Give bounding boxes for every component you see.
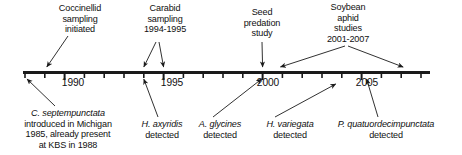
leader-carabid-sampling (159, 42, 164, 67)
annotation-p-quatuordecimpunctata: P. quatuordecimpunctata detected (318, 119, 454, 140)
annotation-h-variegata: H. variegata detected (252, 119, 328, 140)
annotation-line: introduced in Michigan (8, 119, 128, 130)
leader-carabid-sampling (144, 42, 156, 67)
annotation-line: Carabid (120, 3, 210, 14)
species-name: P. quatuordecimpunctata (318, 119, 454, 130)
annotation-line: sampling (35, 14, 125, 25)
annotation-line: aphid (305, 13, 391, 24)
annotation-line: 2001-2007 (305, 34, 391, 45)
tick-label-2005: 2005 (347, 77, 387, 88)
annotation-a-glycines: A. glycines detected (186, 119, 254, 140)
annotation-line: Coccinellid (35, 3, 125, 14)
annotation-line: study (222, 28, 302, 39)
annotation-line: detected (186, 130, 254, 141)
annotation-seed-predation-study: Seed predation study (222, 7, 302, 39)
annotation-line: Soybean (305, 2, 391, 13)
annotation-coccinellid-sampling: Coccinellid sampling initiated (35, 3, 125, 35)
annotation-line: Seed (222, 7, 302, 18)
timeline-figure: Coccinellid sampling initiated Carabid s… (0, 0, 462, 155)
species-name: H. variegata (252, 119, 328, 130)
leader-coccinellid-sampling (47, 36, 68, 67)
leader-soybean-aphid-studies (348, 46, 403, 67)
annotation-carabid-sampling: Carabid sampling 1994-1995 (120, 3, 210, 35)
annotation-line: 1994-1995 (120, 24, 210, 35)
tick-label-1995: 1995 (152, 77, 192, 88)
leader-h-variegata (275, 84, 336, 117)
annotation-line: sampling (120, 14, 210, 25)
annotation-line: initiated (35, 24, 125, 35)
annotation-line: 1985, already present (8, 129, 128, 140)
annotation-line: detected (252, 130, 328, 141)
leader-soybean-aphid-studies (280, 46, 345, 67)
species-name: C. septempunctata (8, 108, 128, 119)
tick-label-2000: 2000 (248, 77, 288, 88)
leader-seed-predation-study (262, 42, 263, 67)
annotation-c-septempunctata: C. septempunctata introduced in Michigan… (8, 108, 128, 150)
annotation-line: detected (318, 130, 454, 141)
leader-c-septempunctata (27, 79, 55, 106)
tick-label-1990: 1990 (53, 77, 93, 88)
annotation-soybean-aphid-studies: Soybean aphid studies 2001-2007 (305, 2, 391, 44)
annotation-line: studies (305, 23, 391, 34)
annotation-line: at KBS in 1988 (8, 140, 128, 151)
annotation-line: predation (222, 18, 302, 29)
species-name: A. glycines (186, 119, 254, 130)
